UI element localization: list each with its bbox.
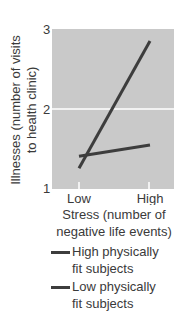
y-axis-label-line-2: to health clinic) [24, 67, 39, 154]
x-axis-title: Stress (number of negative life events) [48, 206, 180, 240]
y-axis-label: Illnesses (number of visits to health cl… [8, 35, 39, 185]
x-axis-title-line-2: negative life events) [48, 223, 180, 240]
legend-line-icon [51, 286, 70, 289]
legend: High physically fit subjects Low physica… [51, 243, 159, 313]
x-axis-title-line-1: Stress (number of [48, 206, 180, 223]
legend-line-icon [51, 251, 70, 254]
y-axis-label-line-1: Illnesses (number of visits [8, 35, 23, 185]
y-tick-3: 3 [43, 22, 50, 37]
x-tick-label-high: High [137, 191, 164, 205]
legend-item-high-fit: High physically fit subjects [51, 243, 159, 277]
x-tick-label-low: Low [67, 191, 91, 205]
legend-label-line-1: High physically [72, 243, 159, 260]
legend-label-line-1: Low physically [72, 278, 159, 295]
y-tick-2: 2 [43, 102, 50, 117]
line-chart: 3 2 1 Low High Illnesses (number of visi… [0, 0, 180, 205]
y-tick-1: 1 [43, 181, 50, 196]
legend-item-low-fit: Low physically fit subjects [51, 278, 159, 312]
legend-label-line-2: fit subjects [72, 295, 159, 312]
legend-label-line-2: fit subjects [72, 260, 159, 277]
